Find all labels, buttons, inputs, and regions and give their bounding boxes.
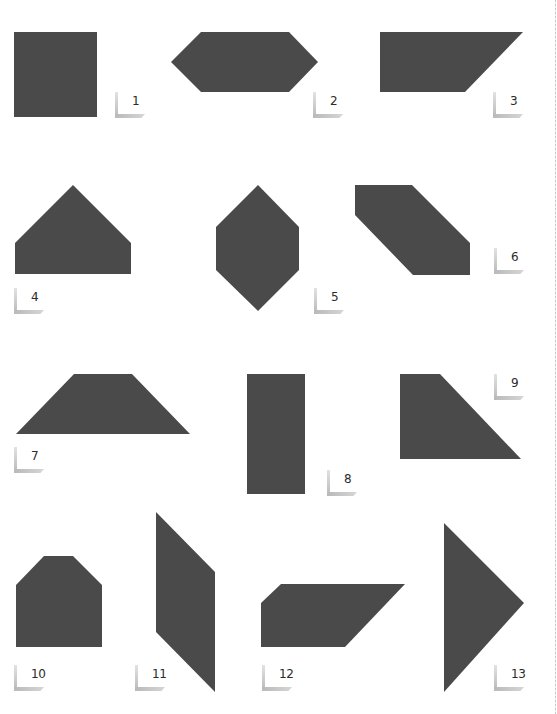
label-marker-11: 11 — [135, 665, 167, 693]
shape-number-label: 6 — [511, 250, 518, 264]
shape-number-label: 9 — [511, 376, 518, 390]
shapes-canvas — [0, 0, 557, 714]
corner-bracket-base — [135, 687, 165, 691]
corner-bracket-base — [314, 310, 344, 314]
shape-number-label: 8 — [344, 472, 351, 486]
label-marker-10: 10 — [14, 665, 46, 693]
shape-number-label: 1 — [132, 94, 139, 108]
label-marker-7: 7 — [14, 447, 46, 475]
shape-12-wide-trapezoid — [261, 584, 405, 647]
label-marker-8: 8 — [327, 470, 359, 498]
label-marker-4: 4 — [14, 288, 46, 316]
corner-bracket-base — [14, 469, 44, 473]
shape-6-slanted-hexagon — [355, 185, 470, 275]
shape-number-label: 3 — [510, 94, 517, 108]
corner-bracket-base — [115, 114, 145, 118]
label-marker-3: 3 — [493, 92, 525, 120]
corner-bracket-base — [14, 310, 44, 314]
corner-bracket-base — [494, 270, 524, 274]
shape-number-label: 12 — [279, 667, 293, 681]
corner-bracket-base — [493, 114, 523, 118]
shape-8-tall-rectangle — [247, 374, 305, 494]
label-marker-13: 13 — [494, 665, 526, 693]
shape-number-label: 2 — [330, 94, 337, 108]
corner-bracket-base — [313, 114, 343, 118]
corner-bracket-base — [494, 396, 524, 400]
shape-number-label: 4 — [31, 290, 38, 304]
shape-10-chamfered-pentagon — [16, 556, 102, 647]
corner-bracket-base — [327, 492, 357, 496]
label-marker-1: 1 — [115, 92, 147, 120]
label-marker-6: 6 — [494, 248, 526, 276]
shape-3-right-trapezoid — [380, 32, 523, 92]
shape-4-pentagon-house — [15, 185, 131, 274]
shape-1-square — [14, 32, 97, 117]
label-marker-9: 9 — [494, 374, 526, 402]
label-marker-2: 2 — [313, 92, 345, 120]
shape-number-label: 10 — [31, 667, 45, 681]
shape-7-isosceles-trapezoid — [16, 374, 190, 434]
shape-2-elongated-hexagon — [171, 32, 318, 92]
shape-number-label: 13 — [511, 667, 525, 681]
label-marker-12: 12 — [262, 665, 294, 693]
corner-bracket-base — [262, 687, 292, 691]
worksheet-page: 1 2 3 4 5 6 7 8 9 10 — [0, 0, 557, 714]
shape-number-label: 7 — [31, 449, 38, 463]
shape-5-vertical-hexagon — [216, 185, 299, 311]
label-marker-5: 5 — [314, 288, 346, 316]
corner-bracket-base — [14, 687, 44, 691]
shape-number-label: 11 — [152, 667, 166, 681]
shape-number-label: 5 — [331, 290, 338, 304]
corner-bracket-base — [494, 687, 524, 691]
